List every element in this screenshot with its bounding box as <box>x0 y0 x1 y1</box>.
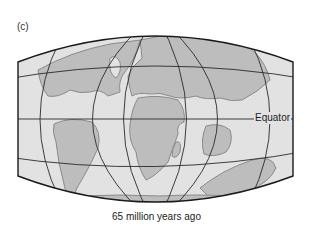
equator-label: Equator <box>254 112 291 124</box>
eurasia-landmass <box>128 34 270 100</box>
figure-caption: 65 million years ago <box>0 211 313 222</box>
